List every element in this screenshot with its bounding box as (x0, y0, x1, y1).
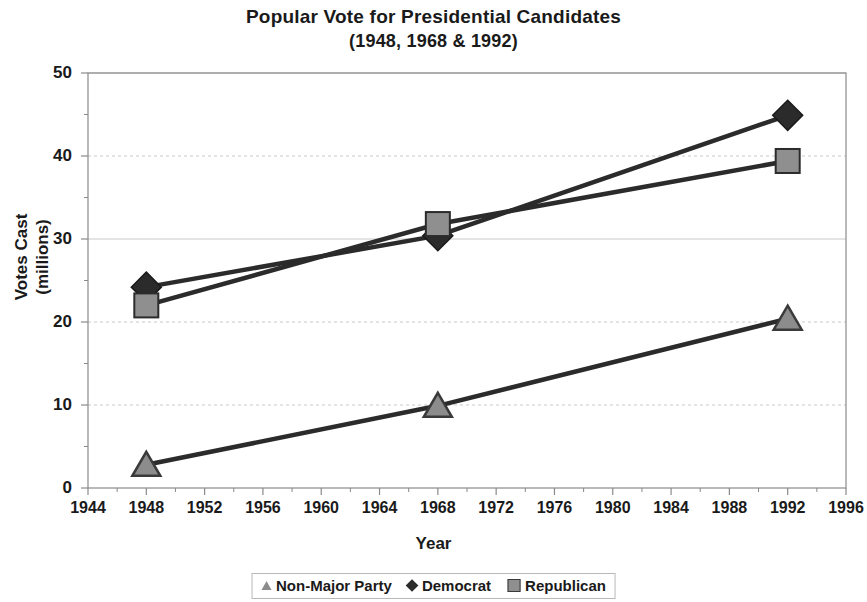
x-tick-label-1992: 1992 (758, 500, 818, 516)
x-tick-label-1980: 1980 (583, 500, 643, 516)
series-line-democrat (146, 115, 787, 287)
series-line-non-major-party (146, 319, 787, 465)
x-tick-label-1956: 1956 (233, 500, 293, 516)
diamond-marker-icon (406, 579, 419, 592)
data-point-democrat-1992 (773, 100, 803, 130)
y-tick-label-20: 20 (12, 313, 72, 330)
legend-label-non-major-party: Non-Major Party (276, 577, 392, 594)
triangle-marker-icon (261, 581, 271, 590)
x-tick-label-1968: 1968 (408, 500, 468, 516)
x-tick-label-1944: 1944 (58, 500, 118, 516)
legend-item-non-major-party: Non-Major Party (261, 577, 392, 594)
legend-item-republican: Republican (507, 577, 606, 594)
legend-item-democrat: Democrat (408, 577, 491, 594)
series-line-republican (146, 161, 787, 305)
chart-legend: Non-Major Party Democrat Republican (251, 573, 616, 599)
y-tick-label-50: 50 (12, 64, 72, 81)
y-tick-label-10: 10 (12, 396, 72, 413)
x-tick-label-1948: 1948 (116, 500, 176, 516)
data-point-non-major-party-1992 (774, 306, 802, 330)
data-point-republican-1968 (426, 212, 450, 236)
legend-label-democrat: Democrat (422, 577, 491, 594)
x-tick-label-1952: 1952 (175, 500, 235, 516)
y-tick-label-0: 0 (12, 479, 72, 496)
x-tick-label-1960: 1960 (291, 500, 351, 516)
y-tick-label-40: 40 (12, 147, 72, 164)
x-tick-label-1984: 1984 (641, 500, 701, 516)
x-tick-label-1972: 1972 (466, 500, 526, 516)
x-tick-label-1964: 1964 (350, 500, 410, 516)
y-tick-label-30: 30 (12, 230, 72, 247)
data-point-republican-1948 (134, 293, 158, 317)
x-tick-label-1996: 1996 (816, 500, 867, 516)
square-marker-icon (507, 579, 520, 592)
chart-container: Popular Vote for Presidential Candidates… (0, 0, 867, 602)
legend-label-republican: Republican (525, 577, 606, 594)
data-point-republican-1992 (776, 149, 800, 173)
x-tick-label-1976: 1976 (524, 500, 584, 516)
x-tick-label-1988: 1988 (699, 500, 759, 516)
